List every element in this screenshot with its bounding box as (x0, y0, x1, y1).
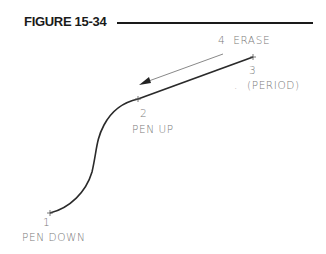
point-1-number: 1 (43, 216, 50, 228)
erase-label: 4 ERASE (218, 34, 270, 46)
point-1-label: PEN DOWN (22, 231, 86, 243)
point-2-marker (135, 96, 141, 102)
point-3-marker (250, 54, 256, 60)
sketch-diagram: 4 ERASE 3 . (PERIOD) 2 PEN UP 1 PEN DOWN (0, 0, 326, 254)
point-3-label: (PERIOD) (247, 79, 300, 91)
arrowhead-icon (139, 77, 151, 85)
period-key: . (234, 79, 238, 91)
point-3-number: 3 (249, 64, 256, 76)
erase-arrow (139, 54, 223, 85)
straight-segment (138, 57, 253, 99)
freehand-curve (50, 99, 138, 213)
point-2-label: PEN UP (132, 123, 174, 135)
point-2-number: 2 (140, 107, 147, 119)
